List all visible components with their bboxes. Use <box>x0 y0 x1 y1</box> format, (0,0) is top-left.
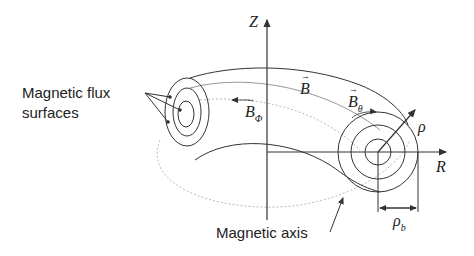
magnetic-axis-pointer <box>330 198 343 232</box>
rho-label: ρ <box>418 118 426 136</box>
b-theta-subscript: θ <box>358 103 363 114</box>
left-cross-section <box>165 78 209 146</box>
b-field-line <box>200 99 360 150</box>
torus-lower <box>195 144 380 192</box>
b-theta-symbol: B <box>348 93 358 111</box>
rho-b-dimension <box>378 152 418 212</box>
b-phi-label: BΦ <box>245 103 262 121</box>
flux-surfaces-label-line2: surfaces <box>22 104 79 121</box>
r-axis-label: R <box>436 158 446 176</box>
torus-outer-top <box>190 68 408 125</box>
b-field-label: B <box>300 80 310 98</box>
rho-b-subscript: b <box>401 222 406 233</box>
rho-b-symbol: ρ <box>393 212 401 229</box>
tokamak-diagram: Magnetic flux surfaces Magnetic axis Z R… <box>0 0 474 256</box>
rho-b-label: ρb <box>393 212 406 230</box>
z-axis-label: Z <box>249 13 258 31</box>
flux-surfaces-label-line1: Magnetic flux <box>22 84 110 101</box>
b-theta-label: Bθ <box>348 93 363 111</box>
b-phi-subscript: Φ <box>255 113 263 124</box>
magnetic-axis-label: Magnetic axis <box>216 224 308 241</box>
b-phi-symbol: B <box>245 103 255 121</box>
b-field-symbol: B <box>300 80 310 98</box>
magnetic-axis-ellipse <box>157 140 410 207</box>
